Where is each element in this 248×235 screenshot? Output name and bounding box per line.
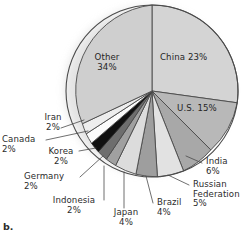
slice-label-brazil-value: 4%	[157, 208, 182, 218]
pie-chart-figure: Other 34% China 23% U.S. 15% Iran 2% Can…	[0, 0, 248, 235]
slice-label-brazil: Brazil 4%	[157, 198, 182, 217]
slice-label-germany-value: 2%	[24, 182, 64, 192]
slice-label-other-value: 34%	[74, 63, 140, 73]
figure-caption: b.	[3, 221, 13, 232]
slice-label-other: Other 34%	[74, 53, 140, 72]
slice-label-japan-value: 4%	[108, 218, 144, 228]
leader-line-brazil	[146, 176, 153, 203]
leader-line-germany	[80, 156, 103, 177]
slice-label-canada: Canada 2%	[2, 135, 35, 154]
slice-label-japan: Japan 4%	[108, 208, 144, 227]
slice-label-china: China 23%	[160, 53, 207, 63]
leader-line-russian-federation	[168, 175, 189, 185]
slice-label-iran-value: 2%	[32, 123, 74, 133]
slice-label-russian-federation: Russian Federation 5%	[193, 180, 240, 209]
slice-label-russian-federation-value: 5%	[193, 199, 240, 209]
slice-label-indonesia-value: 2%	[44, 206, 104, 216]
slice-label-iran: Iran 2%	[32, 113, 74, 132]
slice-label-indonesia: Indonesia 2%	[44, 196, 104, 215]
slice-label-india-value: 6%	[206, 167, 234, 177]
slice-label-canada-value: 2%	[2, 145, 35, 155]
slice-label-us: U.S. 15%	[177, 104, 217, 114]
slice-label-germany: Germany 2%	[24, 172, 64, 191]
slice-label-korea-value: 2%	[40, 157, 82, 167]
slice-label-korea: Korea 2%	[40, 147, 82, 166]
slice-label-india: India 6%	[206, 157, 234, 176]
